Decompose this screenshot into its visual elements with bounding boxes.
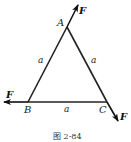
- force-label-c: F: [119, 111, 128, 122]
- force-arrow-c: [107, 102, 118, 121]
- force-label-b: F: [5, 89, 14, 100]
- vertex-label-b: B: [23, 104, 31, 115]
- side-ab: [28, 27, 67, 102]
- side-label-bc: a: [64, 104, 69, 114]
- side-label-ab: a: [38, 55, 43, 65]
- vertex-label-a: A: [56, 17, 64, 28]
- force-label-a: F: [78, 5, 87, 16]
- side-label-ac: a: [91, 55, 96, 65]
- equilateral-triangle-force-diagram: F F F A B C a a a 图 2-84: [0, 0, 131, 142]
- vertex-label-c: C: [99, 104, 107, 115]
- side-ac: [67, 27, 107, 102]
- force-arrow-a: [67, 5, 78, 27]
- figure-caption: 图 2-84: [53, 132, 82, 141]
